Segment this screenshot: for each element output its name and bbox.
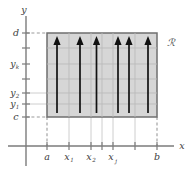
x-tick-label-x2-subscript: 2 [91, 157, 96, 163]
x-tick-label-x1-subscript: 1 [70, 157, 74, 163]
x-tick-label-b: b [154, 151, 160, 162]
x-axis-label: x [179, 140, 185, 151]
y-tick-label-yk-subscript: k [16, 64, 20, 70]
y-tick-label-y1-subscript: 1 [16, 104, 20, 110]
figure-container: y x d y k y 2 y 1 c a x 1 x 2 x j b ℛ [0, 0, 192, 171]
y-axis-label: y [20, 4, 27, 15]
region-label-r: ℛ [167, 37, 176, 48]
y-tick-label-d: d [13, 27, 19, 38]
rectangle-region-figure: y x d y k y 2 y 1 c a x 1 x 2 x j b ℛ [0, 0, 192, 171]
y-tick-label-c: c [13, 111, 19, 122]
x-tick-label-xj-subscript: j [113, 158, 117, 165]
x-tick-label-xj: x [108, 151, 114, 162]
x-tick-label-a: a [44, 151, 50, 162]
